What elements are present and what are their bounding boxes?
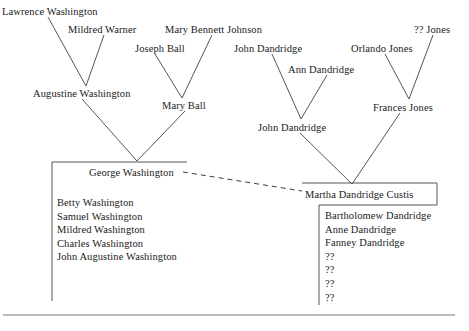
node-lawrence-washington: Lawrence Washington bbox=[2, 6, 98, 18]
list-item: ?? bbox=[325, 277, 431, 291]
list-item: Charles Washington bbox=[57, 237, 177, 251]
genealogy-chart: Lawrence Washington Mildred Warner Mary … bbox=[0, 0, 469, 331]
node-john-dandridge-sr: John Dandridge bbox=[234, 43, 302, 55]
list-item: Anne Dandridge bbox=[325, 223, 431, 237]
dandridge-siblings-list: Bartholomew Dandridge Anne Dandridge Fan… bbox=[325, 209, 431, 304]
list-item: Mildred Washington bbox=[57, 223, 177, 237]
list-item: Samuel Washington bbox=[57, 210, 177, 224]
node-augustine-washington: Augustine Washington bbox=[33, 88, 131, 100]
node-mary-ball: Mary Ball bbox=[162, 100, 206, 112]
node-ann-dandridge: Ann Dandridge bbox=[288, 64, 354, 76]
node-orlando-jones: Orlando Jones bbox=[351, 43, 413, 55]
washington-siblings-list: Betty Washington Samuel Washington Mildr… bbox=[57, 196, 177, 264]
list-item: Fanney Dandridge bbox=[325, 236, 431, 250]
list-item: ?? bbox=[325, 250, 431, 264]
list-item: ?? bbox=[325, 263, 431, 277]
list-item: Bartholomew Dandridge bbox=[325, 209, 431, 223]
node-joseph-ball: Joseph Ball bbox=[135, 43, 185, 55]
node-qq-jones: ?? Jones bbox=[414, 24, 450, 36]
node-mildred-warner: Mildred Warner bbox=[68, 24, 136, 36]
marriage-dashed-line bbox=[183, 172, 302, 191]
list-item: ?? bbox=[325, 291, 431, 305]
node-john-dandridge-jr: John Dandridge bbox=[258, 122, 326, 134]
node-frances-jones: Frances Jones bbox=[373, 102, 433, 114]
node-george-washington: George Washington bbox=[89, 167, 174, 179]
node-martha-dandridge-custis: Martha Dandridge Custis bbox=[305, 189, 413, 201]
list-item: John Augustine Washington bbox=[57, 250, 177, 264]
node-mary-bennett-johnson: Mary Bennett Johnson bbox=[165, 24, 262, 36]
list-item: Betty Washington bbox=[57, 196, 177, 210]
